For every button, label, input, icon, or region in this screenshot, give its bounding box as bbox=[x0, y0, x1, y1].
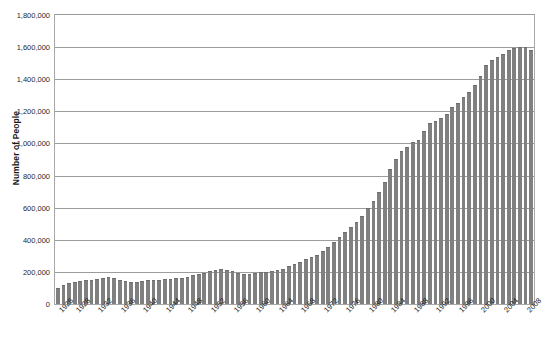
bar bbox=[276, 270, 280, 304]
bar bbox=[338, 237, 342, 304]
bar bbox=[484, 65, 488, 304]
bar bbox=[157, 280, 161, 304]
bar bbox=[112, 278, 116, 304]
bar bbox=[366, 208, 370, 304]
bar-series bbox=[55, 15, 534, 304]
bar bbox=[360, 216, 364, 304]
bar bbox=[253, 273, 257, 304]
y-tick-label: 400,000 bbox=[0, 235, 50, 244]
bar bbox=[349, 227, 353, 304]
bar bbox=[417, 140, 421, 304]
bar bbox=[512, 48, 516, 304]
bar bbox=[270, 271, 274, 304]
bar bbox=[524, 47, 528, 304]
bar bbox=[428, 123, 432, 304]
bar bbox=[456, 103, 460, 304]
bar bbox=[383, 182, 387, 304]
bar bbox=[501, 54, 505, 304]
bar bbox=[422, 131, 426, 304]
y-tick-label: 600,000 bbox=[0, 203, 50, 212]
bar bbox=[332, 242, 336, 304]
bar bbox=[473, 85, 477, 304]
bar bbox=[326, 247, 330, 304]
bar bbox=[315, 255, 319, 304]
bar bbox=[140, 281, 144, 304]
bar bbox=[231, 271, 235, 304]
y-tick-label: 1,600,000 bbox=[0, 43, 50, 52]
bar bbox=[400, 151, 404, 304]
y-tick-label: 1,200,000 bbox=[0, 107, 50, 116]
bar bbox=[202, 273, 206, 304]
bar bbox=[298, 262, 302, 304]
bar bbox=[411, 142, 415, 304]
bar bbox=[434, 121, 438, 304]
bar bbox=[355, 222, 359, 304]
bar bbox=[208, 271, 212, 304]
bar bbox=[343, 232, 347, 304]
bar bbox=[225, 270, 229, 304]
bar bbox=[467, 92, 471, 304]
bar bbox=[95, 279, 99, 304]
bar bbox=[56, 288, 60, 304]
bar bbox=[529, 50, 533, 304]
bar bbox=[372, 201, 376, 304]
bar bbox=[118, 280, 122, 304]
y-tick-label: 0 bbox=[0, 300, 50, 309]
y-tick-label: 200,000 bbox=[0, 267, 50, 276]
y-tick-label: 1,000,000 bbox=[0, 139, 50, 148]
bar bbox=[163, 279, 167, 304]
bar bbox=[490, 60, 494, 304]
bar bbox=[518, 47, 522, 304]
bar bbox=[293, 264, 297, 304]
bar bbox=[479, 76, 483, 304]
y-tick-label: 1,400,000 bbox=[0, 75, 50, 84]
bar bbox=[388, 169, 392, 304]
bar bbox=[248, 274, 252, 305]
bar bbox=[304, 259, 308, 304]
bar bbox=[394, 159, 398, 304]
bar bbox=[439, 118, 443, 304]
bar bbox=[321, 251, 325, 304]
bar bbox=[462, 97, 466, 304]
x-axis-tick-labels: 1925192819321936194019441948195219561960… bbox=[55, 306, 534, 344]
bar bbox=[377, 192, 381, 304]
bar bbox=[405, 147, 409, 304]
y-tick-label: 1,800,000 bbox=[0, 11, 50, 20]
bar bbox=[186, 277, 190, 304]
bar bbox=[450, 107, 454, 304]
bar bbox=[445, 114, 449, 304]
bar bbox=[507, 50, 511, 304]
y-tick-label: 800,000 bbox=[0, 171, 50, 180]
bar bbox=[496, 57, 500, 304]
